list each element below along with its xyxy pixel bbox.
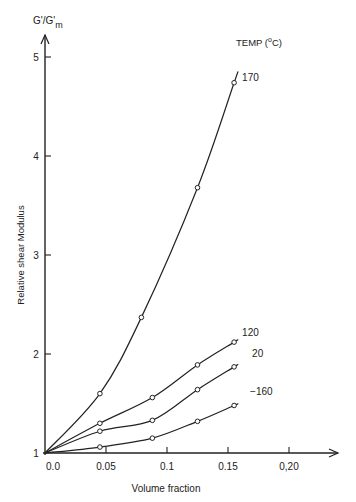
x-axis-label: Volume fraction (132, 483, 201, 494)
legend-title: TEMP (oC) (236, 36, 282, 48)
x-ticks: 0.00.050.10.150,20 (46, 447, 299, 472)
data-point-marker (195, 185, 200, 190)
data-point-marker (150, 436, 155, 441)
x-axis (43, 449, 338, 457)
y-tick-label: 1 (33, 448, 39, 459)
y-axis-top-label: G'/G'm (33, 15, 63, 30)
y-tick-label: 2 (33, 349, 39, 360)
series-line-2 (45, 365, 238, 453)
data-point-marker (150, 395, 155, 400)
series-label: 120 (242, 327, 259, 338)
series-line-1 (45, 340, 238, 453)
chart: 12345 0.00.050.10.150,20 17012020−160 G'… (0, 0, 356, 502)
data-point-marker (98, 391, 103, 396)
data-point-marker (139, 315, 144, 320)
x-tick-label: 0.15 (218, 461, 238, 472)
data-point-marker (98, 429, 103, 434)
y-axis (41, 35, 49, 455)
x-tick-label: 0.1 (160, 461, 174, 472)
series-labels: 17012020−160 (242, 72, 273, 398)
data-point-marker (232, 80, 237, 85)
x-tick-label: 0,20 (279, 461, 299, 472)
data-point-marker (232, 365, 237, 370)
data-point-marker (232, 403, 237, 408)
series-label: −160 (250, 386, 273, 397)
series-line-3 (45, 404, 238, 453)
y-axis-label: Relative shear Modulus (15, 205, 26, 305)
y-tick-label: 5 (33, 52, 39, 63)
data-point-marker (195, 387, 200, 392)
x-tick-label: 0.05 (96, 461, 116, 472)
series-line-0 (45, 72, 238, 453)
x-tick-label: 0.0 (46, 461, 60, 472)
series-label: 170 (242, 72, 259, 83)
y-tick-label: 3 (33, 250, 39, 261)
data-point-marker (150, 418, 155, 423)
data-point-marker (98, 421, 103, 426)
y-tick-label: 4 (33, 151, 39, 162)
series-group (45, 72, 238, 453)
series-label: 20 (252, 348, 264, 359)
data-point-marker (98, 445, 103, 450)
data-point-marker (195, 363, 200, 368)
y-ticks: 12345 (33, 52, 51, 459)
data-point-marker (195, 419, 200, 424)
data-point-marker (232, 340, 237, 345)
